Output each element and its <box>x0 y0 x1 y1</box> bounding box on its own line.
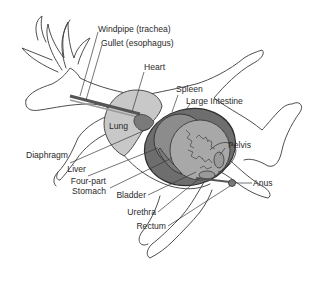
label-windpipe: Windpipe (trachea) <box>98 24 171 34</box>
lower-leg-outline <box>147 182 212 258</box>
label-diaphragm: Diaphragm <box>20 150 68 160</box>
label-pelvis: Pelvis <box>228 140 251 150</box>
label-heart: Heart <box>144 62 165 72</box>
label-liver: Liver <box>40 164 86 174</box>
label-lung: Lung <box>109 121 128 131</box>
label-rectum: Rectum <box>110 221 166 231</box>
anus-shape <box>229 180 236 187</box>
label-four-part-line1: Four-part <box>40 176 106 186</box>
label-four-part-line2: Stomach <box>40 186 106 196</box>
label-gullet: Gullet (esophagus) <box>101 38 174 48</box>
label-large-intestine: Large Intestine <box>186 96 243 106</box>
label-bladder: Bladder <box>100 190 146 200</box>
label-urethra: Urethra <box>100 207 156 217</box>
label-anus: Anus <box>253 178 273 188</box>
label-spleen: Spleen <box>176 84 203 94</box>
antlers-outline <box>22 16 90 72</box>
